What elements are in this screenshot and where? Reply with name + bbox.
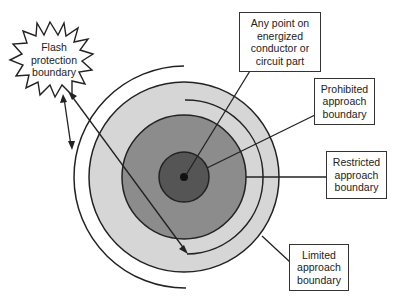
- limited-approach-box: Limited approach boundary: [289, 244, 349, 291]
- prohibited-approach-box: Prohibited approach boundary: [314, 78, 375, 125]
- short-distance-arrow: [64, 98, 71, 146]
- restricted-approach-box: Restricted approach boundary: [326, 151, 387, 199]
- flash-protection-label: Flash protection boundary: [14, 41, 94, 79]
- limited-leader: [262, 236, 290, 262]
- energized-conductor-box: Any point on energized conductor or circ…: [239, 12, 321, 72]
